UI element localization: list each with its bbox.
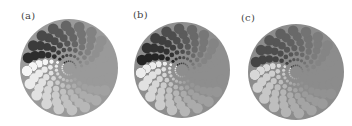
dot-disc-c <box>0 0 352 126</box>
